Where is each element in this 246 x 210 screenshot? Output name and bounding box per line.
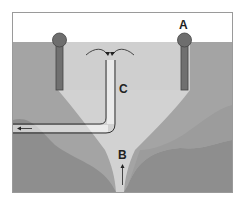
groundwater-diagram: A C B [0, 0, 246, 210]
pipe-interior [107, 60, 114, 124]
label-a: A [179, 18, 188, 32]
well-right-shaft [181, 42, 188, 90]
label-c: C [119, 82, 128, 96]
well-right-head [178, 33, 192, 47]
well-left-shaft [56, 42, 63, 90]
label-b: B [118, 148, 127, 162]
well-left-head [53, 33, 67, 47]
